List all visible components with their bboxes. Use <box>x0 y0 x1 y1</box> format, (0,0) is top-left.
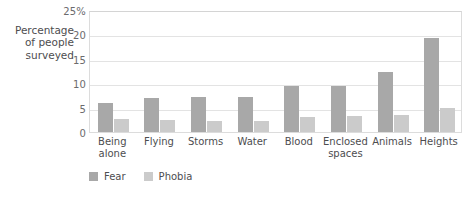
x-axis-category-label: Flying <box>136 136 183 148</box>
bar-fear <box>98 103 113 132</box>
bar-group <box>230 12 277 132</box>
bar-fear <box>191 97 206 132</box>
bar-fear <box>144 98 159 132</box>
bar-group <box>416 12 463 132</box>
x-axis-category-label: Storms <box>182 136 229 148</box>
legend-label: Phobia <box>159 171 193 182</box>
bar-phobia <box>347 116 362 132</box>
bar-group <box>183 12 230 132</box>
x-axis-category-label: Heights <box>415 136 462 148</box>
bar-group <box>323 12 370 132</box>
bar-phobia <box>394 115 409 132</box>
x-axis-category-label: Animals <box>369 136 416 148</box>
bar-group <box>370 12 417 132</box>
bar-chart: Percentage of people surveyed 0510152025… <box>0 0 475 197</box>
bar-phobia <box>440 108 455 132</box>
bar-group <box>137 12 184 132</box>
x-axis-category-label: Enclosed spaces <box>322 136 369 159</box>
y-axis-tick-label: 25% <box>2 6 86 17</box>
legend-swatch-icon <box>144 172 153 181</box>
bar-phobia <box>114 119 129 132</box>
y-axis-tick-label: 0 <box>2 128 86 139</box>
bar-phobia <box>160 120 175 132</box>
legend-swatch-icon <box>89 172 98 181</box>
bar-phobia <box>207 121 222 132</box>
bar-phobia <box>300 117 315 132</box>
y-axis-tick-label: 5 <box>2 103 86 114</box>
bar-group <box>90 12 137 132</box>
legend-item-fear: Fear <box>89 171 126 182</box>
legend-label: Fear <box>104 171 126 182</box>
y-axis-tick-labels: 0510152025% <box>0 0 86 197</box>
x-axis-category-label: Being alone <box>89 136 136 159</box>
bar-phobia <box>254 121 269 132</box>
x-axis-category-label: Water <box>229 136 276 148</box>
chart-legend: FearPhobia <box>89 171 192 182</box>
bar-fear <box>238 97 253 132</box>
x-axis-category-label: Blood <box>276 136 323 148</box>
bar-fear <box>331 86 346 132</box>
bar-fear <box>424 38 439 132</box>
bar-fear <box>284 86 299 132</box>
x-axis-category-labels: Being aloneFlyingStormsWaterBloodEnclose… <box>89 136 462 166</box>
bar-fear <box>378 72 393 133</box>
y-axis-tick-label: 15 <box>2 54 86 65</box>
legend-item-phobia: Phobia <box>144 171 193 182</box>
bars-layer <box>90 12 461 132</box>
bar-group <box>277 12 324 132</box>
y-axis-tick-label: 10 <box>2 79 86 90</box>
y-axis-tick-label: 20 <box>2 30 86 41</box>
plot-area <box>89 11 462 133</box>
